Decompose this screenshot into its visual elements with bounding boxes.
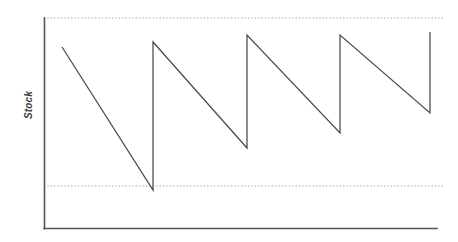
stock-sawtooth-chart: Stock <box>0 0 458 242</box>
stock-level-series <box>62 32 430 190</box>
chart-plot-area <box>0 0 458 242</box>
